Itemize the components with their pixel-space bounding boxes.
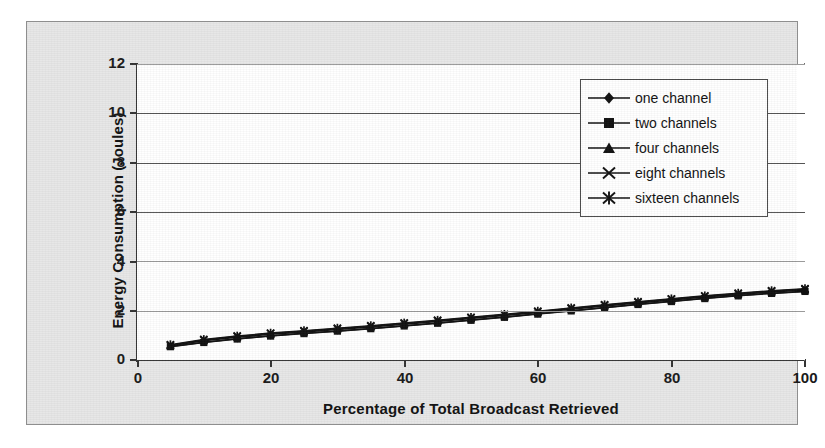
asterisk-marker-icon (587, 189, 631, 207)
x-tick-label-20-wrap: 20 (249, 369, 293, 387)
gridline-2 (137, 311, 805, 312)
chart-legend: one channel two channels (580, 79, 768, 217)
legend-label-eight-channels: eight channels (631, 165, 725, 181)
x-tick-label-60-wrap: 60 (516, 369, 560, 387)
y-tick-label-12-wrap: 12 (91, 55, 125, 71)
x-tick-mark-80 (671, 360, 673, 367)
series-line (170, 291, 805, 346)
x-axis-label: Percentage of Total Broadcast Retrieved (137, 400, 805, 417)
gridline-4 (137, 261, 805, 262)
y-tick-label-4: 4 (97, 253, 125, 268)
y-tick-label-12: 12 (97, 55, 125, 70)
legend-item-sixteen-channels[interactable]: sixteen channels (587, 185, 761, 210)
legend-item-four-channels[interactable]: four channels (587, 135, 761, 160)
legend-label-four-channels: four channels (631, 140, 719, 156)
x-tick-mark-40 (404, 360, 406, 367)
x-tick-mark-100 (804, 360, 806, 367)
y-tick-label-10: 10 (97, 104, 125, 119)
y-tick-label-4-wrap: 4 (91, 253, 125, 269)
diamond-marker-icon (587, 89, 631, 107)
y-axis-label: Energy Consumption (Joules) (109, 81, 126, 361)
x-tick-label-80-wrap: 80 (650, 369, 694, 387)
y-tick-label-0: 0 (97, 351, 125, 366)
y-tick-label-2: 2 (97, 302, 125, 317)
legend-item-one-channel[interactable]: one channel (587, 85, 761, 110)
x-tick-label-80: 80 (664, 369, 681, 386)
x-tick-label-0: 0 (134, 369, 142, 386)
triangle-marker-icon (587, 139, 631, 157)
y-tick-label-2-wrap: 2 (91, 302, 125, 318)
y-tick-label-8-wrap: 8 (91, 154, 125, 170)
x-tick-label-20: 20 (263, 369, 280, 386)
x-tick-label-100-wrap: 100 (783, 369, 825, 387)
y-tick-label-8: 8 (97, 154, 125, 169)
y-tick-label-0-wrap: 0 (91, 351, 125, 367)
x-tick-mark-20 (270, 360, 272, 367)
x-marker-icon (587, 164, 631, 182)
square-marker-icon (587, 114, 631, 132)
x-tick-label-100: 100 (792, 369, 817, 386)
x-tick-label-40-wrap: 40 (383, 369, 427, 387)
gridline-12 (137, 64, 805, 65)
legend-item-two-channels[interactable]: two channels (587, 110, 761, 135)
x-tick-label-60: 60 (530, 369, 547, 386)
x-tick-label-40: 40 (397, 369, 414, 386)
x-tick-label-0-wrap: 0 (116, 369, 160, 387)
y-tick-label-6-wrap: 6 (91, 203, 125, 219)
legend-label-two-channels: two channels (631, 115, 717, 131)
y-tick-label-10-wrap: 10 (91, 104, 125, 120)
x-tick-mark-60 (537, 360, 539, 367)
legend-label-one-channel: one channel (631, 90, 711, 106)
legend-label-sixteen-channels: sixteen channels (631, 190, 739, 206)
chart-figure: Energy Consumption (Joules) 12 10 8 6 4 … (0, 0, 825, 448)
chart-frame: Energy Consumption (Joules) 12 10 8 6 4 … (26, 21, 798, 425)
y-tick-label-6: 6 (97, 203, 125, 218)
legend-item-eight-channels[interactable]: eight channels (587, 160, 761, 185)
y-axis-label-container: Energy Consumption (Joules) (65, 62, 91, 362)
